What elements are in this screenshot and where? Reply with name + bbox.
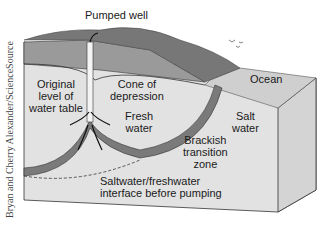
label-ocean: Ocean	[250, 73, 282, 85]
label-salt-water: Salt water	[232, 110, 259, 134]
label-line: water	[125, 122, 153, 134]
label-line: depression	[110, 90, 164, 102]
label-line: water	[232, 122, 259, 134]
label-line: level of	[29, 90, 83, 102]
label-line: interface before pumping	[100, 187, 222, 199]
label-line: water table	[29, 102, 83, 114]
label-original-level: Original level of water table	[29, 78, 83, 114]
label-line: Saltwater/freshwater	[100, 175, 222, 187]
label-line: transition	[183, 146, 228, 158]
label-line: Original	[29, 78, 83, 90]
label-line: Fresh	[125, 110, 153, 122]
label-line: Cone of	[110, 78, 164, 90]
label-line: zone	[183, 158, 228, 170]
label-interface-before-pumping: Saltwater/freshwater interface before pu…	[100, 175, 222, 199]
photo-credit: Bryan and Cherry Alexander/ScienceSource	[4, 41, 15, 218]
label-cone-of-depression: Cone of depression	[110, 78, 164, 102]
label-fresh-water: Fresh water	[125, 110, 153, 134]
label-line: Brackish	[183, 134, 228, 146]
label-pumped-well: Pumped well	[85, 9, 148, 21]
well-shaft	[87, 42, 93, 122]
label-line: Salt	[232, 110, 259, 122]
label-brackish-zone: Brackish transition zone	[183, 134, 228, 170]
birds	[229, 40, 243, 48]
